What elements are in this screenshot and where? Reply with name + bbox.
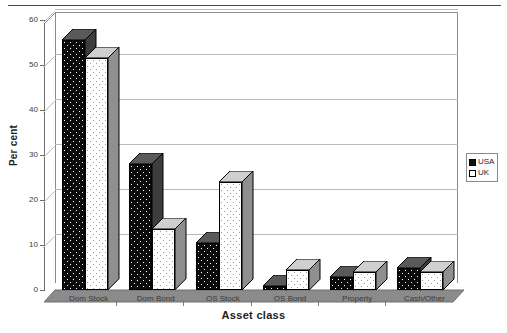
bar-side-face	[108, 47, 120, 291]
x-tick-separator	[116, 300, 117, 306]
y-tick-depth-connector	[43, 189, 55, 201]
y-tick-label: 50	[8, 61, 38, 69]
bar-column[interactable]	[152, 218, 186, 290]
legend-item-uk[interactable]: UK	[469, 168, 494, 178]
legend-label-uk: UK	[478, 169, 489, 177]
y-tick-depth-connector	[43, 54, 55, 66]
plot-area: 0102030405060 Per cent Dom StockDom Bond…	[0, 0, 507, 333]
y-tick-depth-connector	[43, 99, 55, 111]
legend-label-usa: USA	[478, 158, 494, 166]
bar-column[interactable]	[353, 261, 387, 290]
bar-front-face	[62, 40, 85, 290]
bar-front-face	[152, 229, 175, 290]
y-tick-label: 60	[8, 16, 38, 24]
bar-front-face	[330, 277, 353, 291]
y-tick-depth-connector	[43, 234, 55, 246]
x-tick-separator	[385, 300, 386, 306]
bar-column[interactable]	[219, 171, 253, 290]
white-square-icon	[469, 170, 476, 177]
bar-side-face	[242, 171, 254, 291]
bar-front-face	[219, 182, 242, 290]
black-square-icon	[469, 159, 476, 166]
y-tick-depth-connector	[43, 9, 55, 21]
x-tick-separator	[318, 300, 319, 306]
bar-front-face	[263, 286, 286, 291]
bar-front-face	[420, 272, 443, 290]
bar-front-face	[85, 58, 108, 290]
x-tick-label: OS Bond	[257, 294, 324, 304]
x-tick-label: OS Stock	[189, 294, 256, 304]
x-tick-label: Dom Stock	[55, 294, 122, 304]
x-tick-label: Property	[324, 294, 391, 304]
y-tick-depth-connector	[43, 144, 55, 156]
x-tick-separator	[251, 300, 252, 306]
y-tick-label: 0	[8, 286, 38, 294]
y-tick-label: 10	[8, 241, 38, 249]
bar-column[interactable]	[286, 259, 320, 290]
bar-column[interactable]	[85, 47, 119, 290]
x-tick-label: Dom Bond	[122, 294, 189, 304]
bar-front-face	[353, 272, 376, 290]
x-tick-label: Cash/Other	[391, 294, 458, 304]
bar-front-face	[286, 270, 309, 290]
bar-front-face	[397, 268, 420, 291]
chart-legend[interactable]: USA UK	[466, 153, 498, 182]
bar-front-face	[196, 243, 219, 290]
legend-item-usa[interactable]: USA	[469, 157, 494, 167]
x-axis-title: Asset class	[0, 309, 507, 321]
chart-figure: 0102030405060 Per cent Dom StockDom Bond…	[0, 0, 507, 333]
bar-front-face	[129, 164, 152, 290]
y-tick-label: 20	[8, 196, 38, 204]
gridline	[55, 9, 458, 10]
y-axis-title: Per cent	[8, 111, 19, 181]
bar-column[interactable]	[420, 261, 454, 290]
x-tick-separator	[183, 300, 184, 306]
